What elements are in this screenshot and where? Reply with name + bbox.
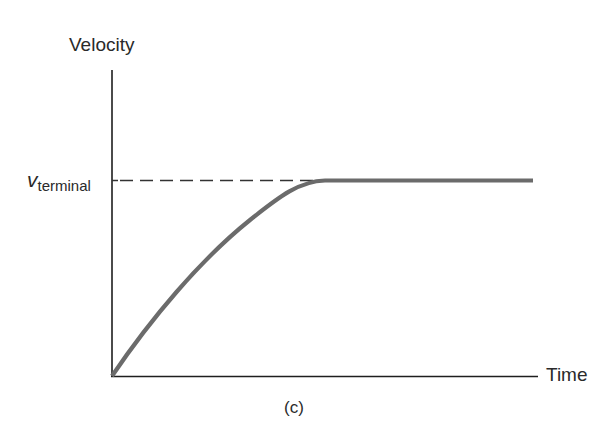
figure-caption: (c) <box>284 398 304 418</box>
terminal-velocity-label: vterminal <box>27 168 91 194</box>
y-axis-label: Velocity <box>69 34 134 56</box>
velocity-time-graph <box>0 0 602 443</box>
velocity-curve <box>112 181 533 377</box>
x-axis-label: Time <box>546 364 588 386</box>
terminal-symbol: v <box>27 168 38 191</box>
terminal-subscript: terminal <box>38 177 91 194</box>
